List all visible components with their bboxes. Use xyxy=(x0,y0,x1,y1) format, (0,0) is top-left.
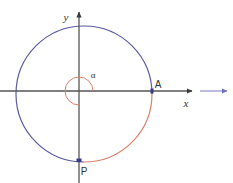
point-a-label: A xyxy=(155,79,162,90)
geometry-figure: y x A P α xyxy=(0,0,233,183)
angle-alpha-label: α xyxy=(91,70,96,80)
point-a-marker xyxy=(151,89,154,94)
point-p-label: P xyxy=(81,166,88,177)
point-p-marker xyxy=(77,159,82,163)
y-axis-label: y xyxy=(63,11,69,23)
circle-minor-arc xyxy=(84,94,152,162)
circle-major-arc xyxy=(16,26,152,162)
figure-canvas: y x A P α xyxy=(0,0,233,183)
x-axis-label: x xyxy=(183,97,189,109)
